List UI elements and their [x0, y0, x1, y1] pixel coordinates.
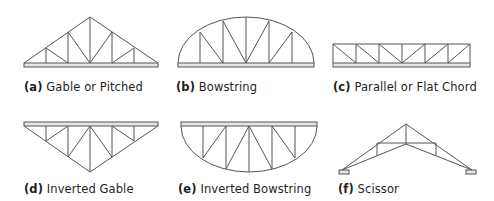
- caption-text: Bowstring: [199, 80, 257, 94]
- caption-letter: (e): [178, 182, 197, 196]
- caption-scissor: (f) Scissor: [338, 182, 399, 196]
- caption-inverted-gable: (d) Inverted Gable: [24, 182, 134, 196]
- caption-text: Gable or Pitched: [46, 80, 143, 94]
- caption-letter: (f): [338, 182, 354, 196]
- caption-inverted-bowstring: (e) Inverted Bowstring: [178, 182, 311, 196]
- caption-bowstring: (b) Bowstring: [176, 80, 257, 94]
- caption-parallel-chord: (c) Parallel or Flat Chord: [333, 80, 477, 94]
- caption-letter: (c): [333, 80, 351, 94]
- scissor-truss-figure: [339, 124, 476, 174]
- caption-letter: (a): [24, 80, 43, 94]
- caption-letter: (b): [176, 80, 195, 94]
- inverted-gable-truss-figure: [24, 122, 158, 172]
- caption-gable: (a) Gable or Pitched: [24, 80, 143, 94]
- caption-text: Parallel or Flat Chord: [354, 80, 476, 94]
- caption-letter: (d): [24, 182, 43, 196]
- bowstring-truss-figure: [178, 17, 314, 67]
- caption-text: Inverted Bowstring: [200, 182, 311, 196]
- inverted-bowstring-truss-figure: [181, 122, 317, 172]
- gable-truss-figure: [24, 17, 158, 67]
- parallel-chord-truss-figure: [333, 44, 470, 67]
- caption-text: Inverted Gable: [47, 182, 134, 196]
- truss-diagrams: [0, 0, 494, 201]
- caption-text: Scissor: [358, 182, 399, 196]
